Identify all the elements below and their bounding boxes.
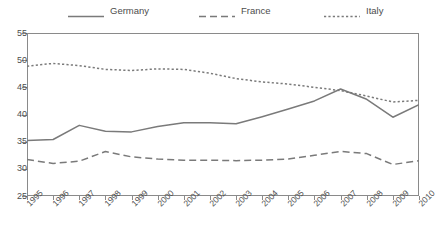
series-line-france (27, 151, 419, 164)
y-tick-label: 35 (5, 137, 27, 146)
legend-item-italy: Italy (324, 4, 383, 18)
chart-legend: Germany France Italy (0, 4, 429, 26)
legend-label-italy: Italy (366, 4, 383, 18)
series-layer (27, 33, 419, 196)
y-tick-label: 25 (5, 192, 27, 201)
legend-swatch-france-dashed-line (199, 7, 235, 16)
y-tick-label: 55 (5, 29, 27, 38)
legend-swatch-italy-dotted-line (324, 7, 360, 16)
y-tick-label: 50 (5, 56, 27, 65)
y-tick-label: 30 (5, 164, 27, 173)
x-tick-label: 2010 (417, 189, 437, 209)
legend-item-germany: Germany (68, 4, 149, 18)
legend-item-france: France (199, 4, 271, 18)
x-axis: 1995199619971998199920002001200220032004… (27, 196, 419, 236)
y-axis: 25303540455055 (0, 33, 27, 196)
series-line-germany (27, 89, 419, 141)
legend-label-germany: Germany (110, 4, 149, 18)
legend-label-france: France (241, 4, 271, 18)
y-tick-label: 45 (5, 83, 27, 92)
y-tick-label: 40 (5, 110, 27, 119)
legend-swatch-germany-solid-line (68, 7, 104, 16)
